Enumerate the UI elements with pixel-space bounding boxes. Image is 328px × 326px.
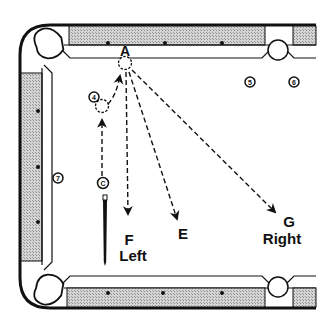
rail-diamond <box>220 41 224 45</box>
rail-diamond <box>220 291 224 295</box>
table-outline <box>20 25 316 308</box>
corner-pocket-bottom-left <box>33 273 65 308</box>
svg-text:4: 4 <box>92 94 96 101</box>
rail-diamond <box>106 291 110 295</box>
ball-4: 4 <box>89 92 99 102</box>
rail-diamond <box>106 41 110 45</box>
svg-text:C: C <box>100 180 105 187</box>
label-e: E <box>178 225 188 242</box>
svg-text:5: 5 <box>248 79 252 86</box>
ball-7: 7 <box>53 173 63 183</box>
billiards-diagram: A 4 5 6 7 C F Left E G Right <box>0 0 328 326</box>
rail-diamond <box>36 165 40 169</box>
label-left: Left <box>119 247 147 264</box>
rail-diamond <box>161 291 165 295</box>
path-a-to-e <box>129 72 177 219</box>
shot-paths <box>102 70 275 219</box>
label-g: G <box>283 213 295 230</box>
cue-ball: C <box>98 178 109 189</box>
left-rail <box>21 65 52 270</box>
rail-diamond <box>36 109 40 113</box>
corner-pocket-top-left <box>33 26 65 61</box>
path-a-to-g <box>132 70 275 212</box>
side-pocket-bottom <box>268 277 288 297</box>
label-a: A <box>120 43 130 59</box>
rail-diamond <box>163 41 167 45</box>
svg-text:7: 7 <box>56 175 60 182</box>
path-a-to-f <box>126 72 128 214</box>
side-pocket-top <box>268 40 288 60</box>
svg-text:6: 6 <box>292 79 296 86</box>
ball-6: 6 <box>289 77 299 87</box>
label-right: Right <box>263 230 301 247</box>
rail-diamond <box>36 220 40 224</box>
path-ghost-to-a <box>108 76 120 104</box>
label-f: F <box>124 231 133 248</box>
cue-stick <box>103 195 107 266</box>
ball-5: 5 <box>245 77 255 87</box>
